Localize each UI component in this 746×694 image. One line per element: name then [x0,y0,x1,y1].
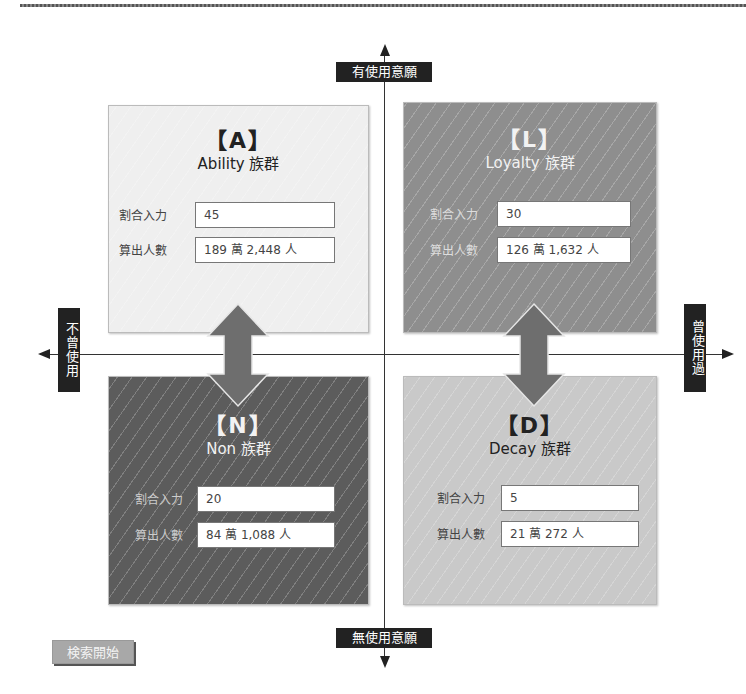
ratio-row: 割合入力 20 [109,486,368,514]
quadrant-non: 【N】 Non 族群 割合入力 20 算出人數 84 萬 1,088 人 [108,376,369,605]
quadrant-name: Decay 族群 [404,437,656,458]
count-label: 算出人數 [430,237,478,265]
count-label: 算出人數 [135,522,183,550]
quadrant-name: Loyalty 族群 [404,151,656,172]
count-output: 126 萬 1,632 人 [497,237,631,263]
quadrant-name: Ability 族群 [109,152,368,173]
arrow-right-icon [722,349,734,359]
ratio-label: 割合入力 [430,201,478,229]
ratio-label: 割合入力 [437,485,485,513]
ratio-input[interactable]: 30 [497,201,631,227]
count-row: 算出人數 189 萬 2,448 人 [109,237,368,265]
arrow-left-icon [38,349,50,359]
quadrant-letter: 【D】 [404,407,656,439]
quadrant-letter: 【N】 [109,407,368,439]
ratio-input[interactable]: 5 [501,485,639,511]
axis-label-left: 不曾使用 [58,308,80,392]
ratio-label: 割合入力 [119,202,167,230]
top-divider [20,4,746,7]
count-output: 21 萬 272 人 [501,521,639,547]
arrow-up-icon [380,44,390,56]
axis-label-bottom: 無使用意願 [336,628,432,648]
quadrant-loyalty: 【L】 Loyalty 族群 割合入力 30 算出人數 126 萬 1,632 … [403,102,657,333]
ratio-row: 割合入力 5 [404,485,656,513]
ratio-row: 割合入力 30 [404,201,656,229]
count-output: 84 萬 1,088 人 [197,522,335,548]
count-label: 算出人數 [437,521,485,549]
quadrant-decay: 【D】 Decay 族群 割合入力 5 算出人數 21 萬 272 人 [403,376,657,605]
vertical-axis [384,52,385,660]
arrow-down-icon [380,656,390,668]
axis-label-right: 曾使用過 [684,304,706,392]
count-row: 算出人數 126 萬 1,632 人 [404,237,656,265]
axis-label-top: 有使用意願 [336,62,432,82]
ratio-input[interactable]: 45 [195,202,335,228]
count-label: 算出人數 [119,237,167,265]
double-arrow-right-icon [501,302,567,408]
ratio-label: 割合入力 [135,486,183,514]
ratio-input[interactable]: 20 [197,486,335,512]
count-row: 算出人數 21 萬 272 人 [404,521,656,549]
count-output: 189 萬 2,448 人 [195,237,335,263]
quadrant-letter: 【A】 [109,122,368,154]
search-start-button[interactable]: 検索開始 [52,640,134,664]
quadrant-ability: 【A】 Ability 族群 割合入力 45 算出人數 189 萬 2,448 … [108,105,369,333]
quadrant-name: Non 族群 [109,437,368,458]
ratio-row: 割合入力 45 [109,202,368,230]
horizontal-axis [40,354,730,355]
quadrant-letter: 【L】 [404,121,656,153]
double-arrow-left-icon [205,302,271,408]
count-row: 算出人數 84 萬 1,088 人 [109,522,368,550]
